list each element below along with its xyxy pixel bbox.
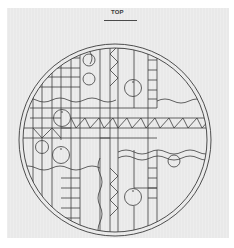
vertical-zigzag-column	[110, 38, 118, 216]
pattern-interior	[20, 30, 221, 240]
outer-rings	[19, 44, 211, 236]
vertical-lines	[33, 30, 165, 240]
circular-pattern-drawing	[0, 0, 234, 248]
outer-ring	[19, 44, 211, 236]
horizontal-rungs	[20, 48, 175, 218]
inner-ring	[23, 48, 207, 232]
